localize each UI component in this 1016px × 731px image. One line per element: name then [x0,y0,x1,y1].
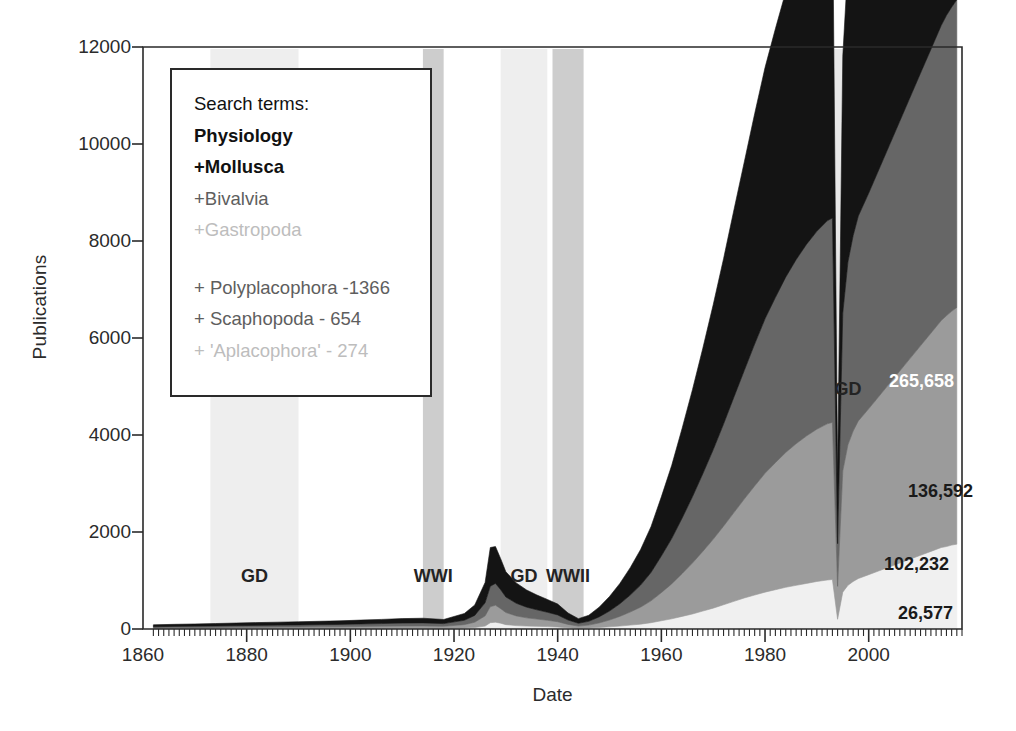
x-tick-label: 1860 [122,644,164,666]
era-label-gd-2: GD [510,566,537,587]
era-label-wwi-1: WWI [414,566,453,587]
legend-note-scaphopoda: + Scaphopoda - 654 [194,303,430,335]
x-tick-label: 1880 [226,644,268,666]
legend-spacer [194,246,430,272]
y-tick-label: 6000 [89,327,131,349]
legend-item-mollusca: +Mollusca [194,151,430,183]
y-tick-label: 2000 [89,521,131,543]
legend-title: Search terms: [194,88,430,120]
era-band-gd-2 [501,49,548,629]
y-tick-label: 10000 [78,133,131,155]
x-tick-label: 1920 [433,644,475,666]
series-total-callout: 102,232 [884,554,949,575]
y-tick-label: 12000 [78,36,131,58]
legend-note-polyplacophora: + Polyplacophora -1366 [194,272,430,304]
x-tick-label: 1940 [537,644,579,666]
series-total-callout: 26,577 [898,603,953,624]
series-total-callout: 136,592 [908,481,973,502]
era-label-wwii-3: WWII [546,566,590,587]
era-label-gd-0: GD [241,566,268,587]
legend-item-gastropoda: +Gastropoda [194,214,430,246]
x-tick-label: 1960 [640,644,682,666]
era-label-gd-4: GD [834,379,861,400]
series-total-callout: 265,658 [889,371,954,392]
x-tick-label: 1980 [744,644,786,666]
legend-note-aplacophora: + 'Aplacophora' - 274 [194,335,430,367]
y-tick-label: 4000 [89,424,131,446]
x-tick-label: 2000 [848,644,890,666]
legend-item-physiology: Physiology [194,120,430,152]
y-tick-label: 0 [120,618,131,640]
x-tick-label: 1900 [329,644,371,666]
publications-area-chart-figure: Publications Date Search terms: Physiolo… [0,0,1016,731]
era-band-wwii-3 [553,49,584,629]
y-tick-label: 8000 [89,230,131,252]
chart-legend: Search terms: Physiology +Mollusca +Biva… [170,68,432,397]
chart-plot-area [0,0,1016,731]
legend-item-bivalvia: +Bivalvia [194,183,430,215]
